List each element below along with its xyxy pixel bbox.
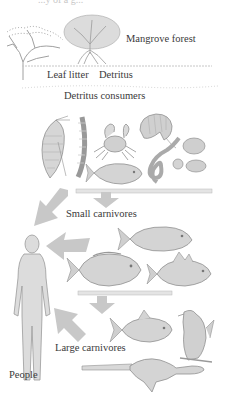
mangrove-tree-illustration <box>62 14 122 66</box>
label-small-carnivores: Small carnivores <box>66 208 137 219</box>
label-detritus-consumers: Detritus consumers <box>64 90 145 101</box>
arrow-small-carnivores-to-people <box>46 232 90 260</box>
arrow-large-carnivores-to-people <box>52 308 86 342</box>
sawfish-illustration <box>80 352 206 394</box>
fish-3-illustration <box>145 252 213 292</box>
arrow-consumers-to-small-carnivores <box>92 192 120 208</box>
crab-illustration <box>92 122 138 162</box>
small-fish-illustration <box>84 160 144 186</box>
shrimp-illustration <box>36 116 72 182</box>
label-detritus: Detritus <box>99 69 133 80</box>
person-illustration <box>12 234 52 384</box>
label-mangrove-forest: Mangrove forest <box>126 33 196 44</box>
label-people: People <box>9 369 38 380</box>
title-fragment: ...y of a g... <box>38 0 83 5</box>
label-large-carnivores: Large carnivores <box>55 342 126 353</box>
clams-illustration <box>172 138 212 178</box>
label-leaf-litter: Leaf litter <box>47 69 89 80</box>
